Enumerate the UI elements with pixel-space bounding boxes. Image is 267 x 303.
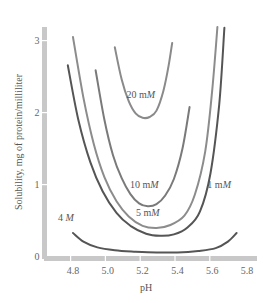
x-tick-label: 5.2 — [136, 265, 149, 276]
curve-label: 4 M — [58, 212, 75, 223]
y-tick-label: 1 — [35, 179, 40, 190]
x-tick-label: 5.6 — [206, 265, 219, 276]
solubility-chart: 0123 4.85.05.25.45.65.8 pH Solubility, m… — [0, 0, 267, 303]
curve-label: 5 mM — [136, 207, 160, 218]
y-axis — [42, 27, 47, 259]
x-tick-label: 5.4 — [171, 265, 184, 276]
x-tick-label: 4.8 — [67, 265, 80, 276]
curve-labels: 20 mM10 mM5 mM1 mM4 M — [58, 89, 232, 224]
x-axis-label: pH — [140, 282, 152, 293]
y-tick-labels: 0123 — [35, 35, 40, 262]
y-tick-label: 2 — [35, 107, 40, 118]
curves — [68, 27, 237, 253]
curve-label: 10 mM — [130, 179, 159, 190]
x-tick-label: 5.0 — [102, 265, 115, 276]
x-tick-label: 5.8 — [241, 265, 254, 276]
y-tick-label: 0 — [35, 251, 40, 262]
axis-tick-gaps — [42, 40, 210, 261]
curve-20-mm — [115, 43, 172, 118]
x-axis — [44, 256, 257, 261]
curve-label: 1 mM — [207, 179, 231, 190]
y-tick-label: 3 — [35, 35, 40, 46]
curve-5-mm — [73, 27, 217, 228]
curve-label: 20 mM — [127, 89, 156, 100]
y-axis-label: Solubility, mg of protein/milliliter — [13, 73, 24, 210]
x-tick-labels: 4.85.05.25.45.65.8 — [67, 265, 254, 276]
